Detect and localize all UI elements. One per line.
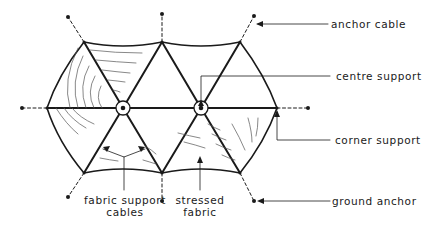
edge-cable-top-right [162, 42, 240, 46]
label-centre-support: centre support [336, 70, 422, 82]
label-stressed-fabric: stressed fabric [170, 194, 230, 218]
edge-cable-bottom-right [162, 169, 240, 173]
edge-cable-left-upper [47, 42, 84, 108]
label-anchor-cable: anchor cable [331, 18, 406, 30]
label-stressed-fabric-line1: stressed [170, 194, 230, 206]
label-fabric-support-cables: fabric support cables [70, 194, 180, 218]
label-corner-support: corner support [335, 134, 421, 146]
edge-cable-top-left [84, 42, 162, 46]
arrow-ground-anchor [257, 198, 264, 204]
edge-cable-right-upper [240, 42, 277, 108]
arrow-anchor-cable [256, 21, 263, 27]
label-ground-anchor: ground anchor [332, 195, 417, 207]
edge-cable-right-lower [240, 108, 277, 173]
edge-cable-bottom-left [84, 169, 162, 173]
label-stressed-fabric-line2: fabric [170, 206, 230, 218]
label-fabric-support-cables-line1: fabric support [70, 194, 180, 206]
arrow-stressed-fabric [197, 156, 203, 163]
label-fabric-support-cables-line2: cables [70, 206, 180, 218]
edge-cable-left-lower [47, 108, 84, 173]
